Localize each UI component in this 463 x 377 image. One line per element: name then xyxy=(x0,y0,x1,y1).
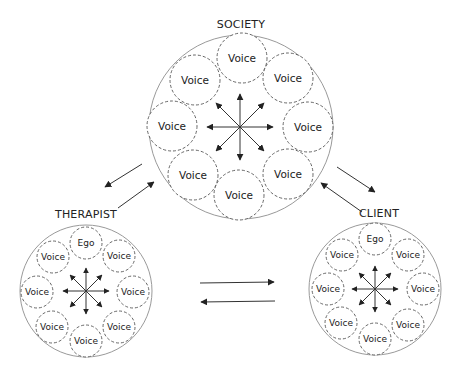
society-voice-bottom-right: Voice xyxy=(263,149,313,199)
voice-label: Voice xyxy=(228,52,256,64)
society-radial-arrows-icon xyxy=(207,94,273,160)
client-voice-top-left: Voice xyxy=(326,239,358,271)
therapist-radial-arrows-icon xyxy=(63,268,109,314)
voice-label: Voice xyxy=(74,336,98,346)
arrow-client-to-therapist xyxy=(201,301,275,302)
arrow-client-to-society xyxy=(321,183,362,212)
therapist-group: THERAPIST Ego Voice Voice Voice Voice Vo… xyxy=(20,208,152,357)
therapist-voice-right: Voice xyxy=(117,276,149,308)
voice-label: Voice xyxy=(330,250,354,260)
client-ego: Ego xyxy=(359,223,391,255)
voice-label: Voice xyxy=(316,284,340,294)
arrow-therapist-to-society xyxy=(118,182,154,208)
voice-label: Voice xyxy=(274,72,302,84)
client-voice-bottom-left: Voice xyxy=(325,307,357,339)
voice-label: Voice xyxy=(396,250,420,260)
voice-label: Voice xyxy=(25,287,49,297)
society-voice-right: Voice xyxy=(283,102,333,152)
arrow-society-to-therapist xyxy=(105,164,142,187)
diagram-canvas: SOCIETY Voice Voice Voice Voice Voice Vo… xyxy=(0,0,463,377)
voice-label: Voice xyxy=(411,284,435,294)
voice-label: Voice xyxy=(181,74,209,86)
voice-label: Voice xyxy=(41,252,65,262)
therapist-voice-bottom-right: Voice xyxy=(103,311,135,343)
voice-label: Voice xyxy=(121,287,145,297)
therapist-voice-bottom-left: Voice xyxy=(36,311,68,343)
society-voice-left: Voice xyxy=(147,101,197,151)
client-label: CLIENT xyxy=(359,207,399,220)
arrow-therapist-to-client xyxy=(200,282,274,283)
voice-label: Voice xyxy=(40,322,64,332)
client-voice-left: Voice xyxy=(312,273,344,305)
arrow-society-to-client xyxy=(337,167,375,192)
voice-label: Voice xyxy=(363,334,387,344)
therapist-voice-left: Voice xyxy=(21,276,53,308)
society-label: SOCIETY xyxy=(217,18,265,31)
voice-label: Voice xyxy=(274,168,302,180)
voice-label: Voice xyxy=(225,189,253,201)
ego-label: Ego xyxy=(367,234,384,244)
society-voice-top-right: Voice xyxy=(263,53,313,103)
voice-label: Voice xyxy=(158,120,186,132)
ego-label: Ego xyxy=(78,238,95,248)
society-group: SOCIETY Voice Voice Voice Voice Voice Vo… xyxy=(147,18,333,220)
client-voice-bottom-right: Voice xyxy=(392,309,424,341)
society-voice-top-left: Voice xyxy=(170,55,220,105)
society-voice-top: Voice xyxy=(217,33,267,83)
voice-label: Voice xyxy=(107,251,131,261)
voice-label: Voice xyxy=(396,320,420,330)
society-voice-bottom: Voice xyxy=(214,170,264,220)
voice-label: Voice xyxy=(179,169,207,181)
society-voice-bottom-left: Voice xyxy=(168,150,218,200)
therapist-ego: Ego xyxy=(70,227,102,259)
client-voice-top-right: Voice xyxy=(392,239,424,271)
voice-label: Voice xyxy=(107,322,131,332)
client-radial-arrows-icon xyxy=(352,266,398,312)
client-voice-right: Voice xyxy=(407,273,439,305)
client-voice-bottom: Voice xyxy=(359,323,391,355)
therapist-voice-top-right: Voice xyxy=(103,240,135,272)
voice-label: Voice xyxy=(294,121,322,133)
client-group: CLIENT Ego Voice Voice Voice Voice Voice… xyxy=(309,207,441,355)
therapist-voice-top-left: Voice xyxy=(37,241,69,273)
therapist-voice-bottom: Voice xyxy=(70,325,102,357)
therapist-label: THERAPIST xyxy=(54,208,117,221)
voice-label: Voice xyxy=(329,318,353,328)
